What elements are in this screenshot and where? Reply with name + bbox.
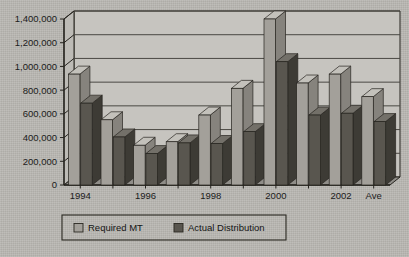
bar[interactable]	[211, 144, 223, 186]
legend-swatch	[74, 224, 83, 233]
bar[interactable]	[81, 103, 93, 185]
bar[interactable]	[374, 122, 386, 185]
bar[interactable]	[146, 154, 158, 185]
bar[interactable]	[362, 97, 374, 185]
y-axis-label: 800,000	[23, 85, 57, 96]
x-axis-label: 2000	[265, 190, 286, 201]
bar[interactable]	[68, 74, 80, 185]
y-axis-label: 1,400,000	[15, 13, 57, 24]
bar[interactable]	[244, 132, 256, 185]
bar-side-face	[386, 114, 396, 185]
y-axis-label: 0	[52, 179, 57, 190]
x-axis-label: 2002	[331, 190, 352, 201]
bar[interactable]	[199, 115, 211, 185]
bar[interactable]	[101, 120, 113, 185]
bar[interactable]	[342, 113, 354, 185]
y-axis-label: 600,000	[23, 108, 57, 119]
x-axis-label: 1996	[135, 190, 156, 201]
bar[interactable]	[264, 19, 276, 185]
bar-chart: 0200,000400,000600,000800,0001,000,0001,…	[0, 0, 409, 257]
legend-label: Required MT	[88, 222, 143, 233]
x-axis-label: 1994	[70, 190, 91, 201]
legend-label: Actual Distribution	[188, 222, 265, 233]
y-axis-label: 200,000	[23, 156, 57, 167]
bar[interactable]	[134, 145, 146, 185]
x-axis-label: 1998	[200, 190, 221, 201]
bar[interactable]	[231, 88, 243, 185]
bar[interactable]	[329, 74, 341, 185]
bar[interactable]	[166, 142, 178, 185]
chart-canvas: 0200,000400,000600,000800,0001,000,0001,…	[0, 0, 409, 257]
y-axis-label: 1,000,000	[15, 61, 57, 72]
bar[interactable]	[297, 83, 309, 185]
x-axis-label: Ave	[366, 190, 382, 201]
y-axis-label: 400,000	[23, 132, 57, 143]
y-axis-label: 1,200,000	[15, 37, 57, 48]
bar[interactable]	[276, 62, 288, 185]
bar[interactable]	[113, 137, 125, 185]
bar[interactable]	[309, 115, 321, 185]
legend-swatch	[174, 224, 183, 233]
bar-group	[166, 134, 200, 185]
bar[interactable]	[179, 143, 191, 185]
